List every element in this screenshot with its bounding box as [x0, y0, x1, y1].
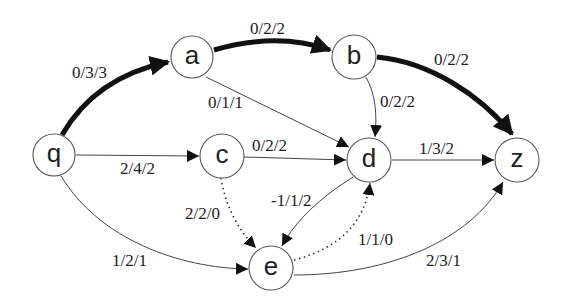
node-label-c: c [216, 139, 229, 169]
node-d: d [347, 138, 391, 182]
edge-c-d [244, 157, 346, 160]
node-label-d: d [362, 143, 376, 173]
node-e: e [249, 246, 293, 290]
edges [61, 41, 512, 275]
edge-label-e-z: 2/3/1 [426, 251, 461, 270]
edge-e-z [294, 182, 503, 275]
edge-label-b-z: 0/2/2 [434, 50, 469, 69]
edge-label-q-e: 1/2/1 [112, 251, 147, 270]
edge-b-d [366, 77, 376, 137]
edge-label-b-d: 0/2/2 [380, 92, 415, 111]
edge-c-e [221, 178, 256, 248]
node-label-e: e [264, 251, 278, 281]
edge-d-e [282, 177, 353, 246]
node-label-z: z [511, 143, 524, 173]
node-label-a: a [185, 40, 200, 70]
edge-label-a-d: 0/1/1 [208, 93, 243, 112]
flow-network-diagram: 0/3/3 0/2/2 0/2/2 0/1/1 0/2/2 2/4/2 0/2/… [0, 0, 571, 296]
node-q: q [33, 134, 75, 176]
node-label-b: b [347, 40, 361, 70]
node-b: b [332, 35, 376, 79]
edge-labels: 0/3/3 0/2/2 0/2/2 0/1/1 0/2/2 2/4/2 0/2/… [72, 19, 469, 270]
edge-a-b [214, 41, 330, 50]
edge-q-c [76, 155, 199, 156]
edge-label-q-c: 2/4/2 [120, 159, 155, 178]
edge-label-a-b: 0/2/2 [250, 19, 285, 38]
edge-label-d-e: -1/1/2 [271, 191, 312, 210]
node-z: z [495, 138, 539, 182]
edge-label-q-a: 0/3/3 [72, 63, 107, 82]
edge-label-c-e: 2/2/0 [185, 204, 220, 223]
edge-label-c-d: 0/2/2 [252, 136, 287, 155]
edge-label-d-z: 1/3/2 [419, 139, 454, 158]
node-label-q: q [47, 138, 61, 168]
edge-label-e-d: 1/1/0 [358, 230, 393, 249]
node-a: a [171, 36, 213, 78]
node-c: c [200, 134, 244, 178]
